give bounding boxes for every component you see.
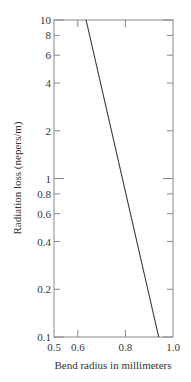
y-axis-title: Radiation loss (nepers/m) [11,121,24,234]
x-tick-label: 0.8 [119,341,133,353]
plot-frame [54,20,173,337]
y-tick-label: 4 [46,77,52,89]
x-tick-label: 0.5 [47,341,61,353]
data-series [86,20,159,337]
y-tick-label: 6 [46,49,52,61]
y-axis-ticks: 10864210.80.60.40.20.1 [37,14,173,343]
y-tick-label: 10 [40,14,52,26]
chart: 10864210.80.60.40.20.1 0.50.60.81.0 Bend… [0,0,191,382]
x-axis-title: Bend radius in millimeters [54,359,171,371]
y-tick-label: 0.2 [37,283,51,295]
y-tick-label: 0.8 [37,188,51,200]
y-tick-label: 8 [46,29,52,41]
y-tick-label: 2 [46,125,52,137]
y-tick-label: 1 [46,173,52,185]
x-tick-label: 1.0 [166,341,180,353]
y-tick-label: 0.6 [37,208,51,220]
plot-border [54,20,173,337]
x-axis-ticks: 0.50.60.81.0 [47,20,180,353]
y-tick-label: 0.4 [37,236,51,248]
x-tick-label: 0.6 [71,341,85,353]
series-line [86,20,159,337]
